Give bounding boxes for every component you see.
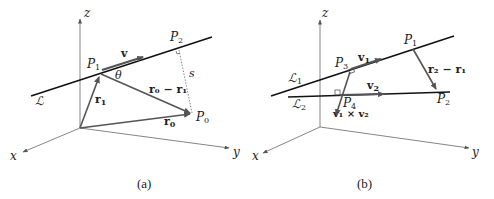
panel-a	[23, 19, 229, 152]
x-axis	[23, 128, 80, 152]
y-axis-label-b: y	[472, 146, 479, 158]
point-P2-label-b: P2	[437, 93, 450, 107]
caption-b: (b)	[357, 176, 372, 192]
diagram-canvas	[0, 0, 494, 199]
line-L-label: ℒ	[35, 95, 44, 107]
panel-b	[263, 20, 469, 153]
point-P0-label: P0	[196, 111, 209, 125]
point-P3-label: P3	[335, 57, 348, 71]
y-axis-label-a: y	[233, 146, 240, 158]
vector-r0-minus-r1-label: r₀ − r₁	[149, 84, 187, 95]
vector-r1-label: r1	[95, 94, 106, 106]
vector-v2	[340, 94, 384, 95]
z-axis-label-b: z	[322, 7, 328, 19]
vector-r2-minus-r1-label: r₂ − r₁	[428, 64, 466, 75]
line-L1-label: ℒ1	[288, 72, 302, 86]
caption-a: (a)	[137, 176, 151, 192]
vector-r0-label: r0	[164, 116, 175, 128]
line-L2-label: ℒ2	[292, 98, 306, 112]
vector-v1-label: v1	[358, 52, 370, 64]
z-axis-label-a: z	[84, 7, 90, 19]
figure: z y x ℒ P1 P2 P0 v θ s r1 r0 r₀ − r₁ (a)…	[0, 0, 494, 199]
y-axis	[80, 128, 229, 148]
point-P1-label-a: P1	[87, 58, 100, 72]
distance-s-label: s	[189, 68, 195, 79]
angle-theta-label: θ	[115, 70, 122, 81]
vector-v1-cross-v2-label: v₁ × v₂	[333, 109, 369, 119]
point-P2-label-a: P2	[170, 31, 183, 45]
right-angle-mark-p4	[335, 90, 340, 95]
y-axis	[320, 127, 469, 148]
right-angle-mark	[176, 51, 180, 54]
point-P1-label-b: P1	[404, 34, 417, 48]
distance-s-dotted	[179, 50, 192, 113]
x-axis-label-b: x	[252, 150, 259, 162]
vector-v-label: v	[121, 48, 127, 59]
x-axis-label-a: x	[10, 150, 17, 162]
vector-v2-label: v2	[367, 80, 379, 92]
x-axis	[263, 127, 320, 153]
axes-b	[263, 20, 469, 153]
